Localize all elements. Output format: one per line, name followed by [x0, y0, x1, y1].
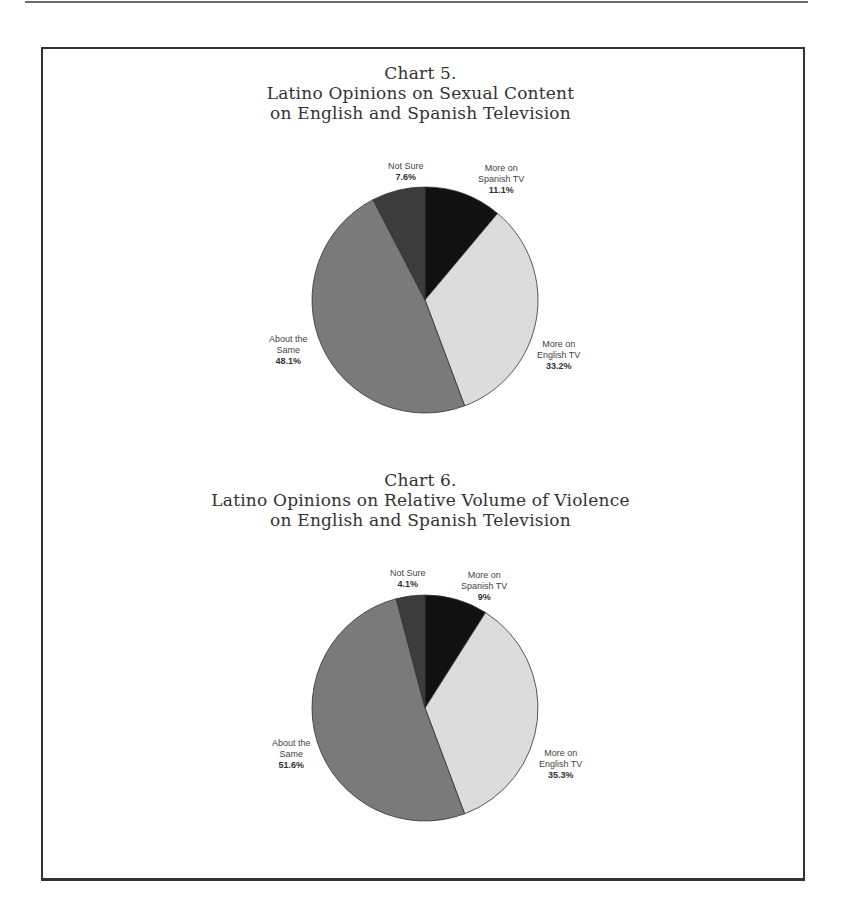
- label-text: Same: [269, 345, 308, 356]
- label-text: Spanish TV: [478, 174, 524, 185]
- chart-5-subtitle-line: on English and Spanish Television: [0, 103, 841, 123]
- label-text: Same: [272, 749, 311, 760]
- label-value: 4.1%: [390, 579, 426, 590]
- chart-5-label-english: More on English TV 33.2%: [537, 339, 580, 372]
- chart-5-title-line: Latino Opinions on Sexual Content: [0, 83, 841, 103]
- label-text: Not Sure: [388, 161, 424, 172]
- chart-6-title-line: Latino Opinions on Relative Volume of Vi…: [0, 490, 841, 510]
- label-value: 51.6%: [272, 760, 311, 771]
- label-value: 11.1%: [478, 185, 524, 196]
- label-value: 35.3%: [539, 770, 582, 781]
- chart-6-label-same: About the Same 51.6%: [272, 738, 311, 771]
- label-text: Not Sure: [390, 568, 426, 579]
- chart-5-title: Chart 5. Latino Opinions on Sexual Conte…: [0, 63, 841, 123]
- label-value: 33.2%: [537, 361, 580, 372]
- chart-5-number: Chart 5.: [0, 63, 841, 83]
- top-rule: [25, 1, 808, 3]
- label-value: 7.6%: [388, 172, 424, 183]
- label-value: 48.1%: [269, 356, 308, 367]
- chart-6-label-not-sure: Not Sure 4.1%: [390, 568, 426, 590]
- chart-6-subtitle-line: on English and Spanish Television: [0, 510, 841, 530]
- label-value: 9%: [461, 592, 507, 603]
- label-text: More on: [461, 570, 507, 581]
- label-text: More on: [539, 748, 582, 759]
- chart-6-label-spanish: More on Spanish TV 9%: [461, 570, 507, 603]
- chart-5-pie: [300, 175, 550, 425]
- label-text: More on: [478, 163, 524, 174]
- chart-6-label-english: More on English TV 35.3%: [539, 748, 582, 781]
- chart-6-pie: [300, 583, 550, 833]
- label-text: About the: [272, 738, 311, 749]
- chart-5-label-same: About the Same 48.1%: [269, 334, 308, 367]
- label-text: English TV: [539, 759, 582, 770]
- label-text: Spanish TV: [461, 581, 507, 592]
- label-text: About the: [269, 334, 308, 345]
- chart-6-number: Chart 6.: [0, 470, 841, 490]
- chart-5-label-not-sure: Not Sure 7.6%: [388, 161, 424, 183]
- label-text: English TV: [537, 350, 580, 361]
- label-text: More on: [537, 339, 580, 350]
- chart-6-title: Chart 6. Latino Opinions on Relative Vol…: [0, 470, 841, 530]
- chart-5-label-spanish: More on Spanish TV 11.1%: [478, 163, 524, 196]
